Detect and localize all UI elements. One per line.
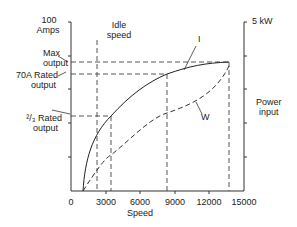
- left-axis-unit: Amps: [33, 25, 63, 35]
- rated-output-label-1: 70A Rated: [10, 70, 58, 80]
- max-output-label-2: output: [20, 58, 68, 68]
- x-tick-6000: 6000: [128, 197, 152, 207]
- curve-W-label: W: [201, 112, 210, 122]
- x-tick-3000: 3000: [94, 197, 118, 207]
- max-output-label-1: Max: [28, 48, 60, 58]
- x-tick-12000: 12000: [195, 197, 223, 207]
- two-thirds-label-2: output: [10, 123, 58, 133]
- idle-label-1: Idle: [106, 20, 132, 30]
- right-axis-max: 5 kW: [252, 16, 273, 26]
- x-tick-9000: 9000: [163, 197, 187, 207]
- power-input-label-1: Power: [256, 97, 282, 107]
- power-input-label-2: input: [259, 107, 279, 117]
- left-axis-max: 100: [35, 15, 63, 25]
- curve-I-label: I: [198, 34, 201, 44]
- idle-label-2: speed: [104, 30, 134, 40]
- x-tick-15000: 15000: [230, 197, 258, 207]
- x-axis-title: Speed: [125, 208, 155, 218]
- x-tick-0: 0: [66, 197, 76, 207]
- power-curve-W: [83, 66, 229, 191]
- rated-output-label-2: output: [10, 80, 56, 90]
- current-curve-I: [83, 62, 229, 191]
- two-thirds-label-1: ²/₃ Rated: [10, 113, 62, 123]
